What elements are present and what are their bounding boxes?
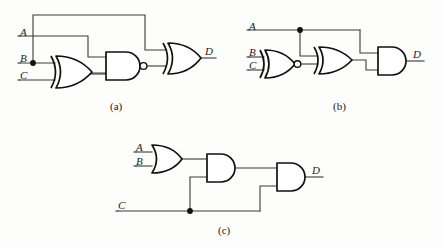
panel-c-gates [152, 145, 305, 191]
panel-c-caption: (c) [218, 225, 230, 236]
and-gate-1-body [207, 154, 235, 182]
panel-c-input-label-c: C [118, 200, 125, 211]
or-gate-1-body [152, 145, 182, 173]
logic-circuit-figure: A B C D (a) [0, 0, 443, 247]
panel-c-diagram [0, 0, 443, 247]
panel-c-output-label-d: D [312, 165, 320, 176]
and-gate-2-body [277, 163, 305, 191]
panel-c-junctions [187, 208, 193, 214]
panel-c-input-label-b: B [136, 156, 143, 167]
panel-c-input-label-a: A [136, 142, 143, 153]
junction-dot-c [187, 208, 193, 214]
